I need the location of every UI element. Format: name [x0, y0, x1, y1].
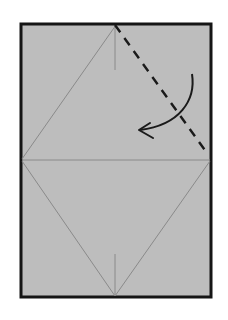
origami-diagram	[0, 0, 228, 320]
